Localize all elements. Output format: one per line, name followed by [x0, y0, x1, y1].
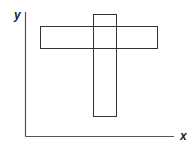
- vertical-rectangle: [94, 15, 117, 117]
- horizontal-rectangle: [41, 27, 158, 49]
- cross-diagram: y x: [0, 0, 194, 148]
- y-axis-label: y: [13, 8, 22, 22]
- x-axis-label: x: [179, 129, 188, 143]
